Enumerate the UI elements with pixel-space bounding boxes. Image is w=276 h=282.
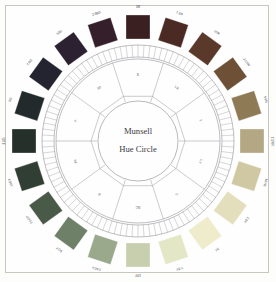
hue-swatch-label-5r: 5R	[136, 5, 141, 9]
hue-swatch-label-2-5y: 2.5Y	[242, 216, 250, 224]
tick-cell-label: ·	[66, 85, 67, 86]
tick-cell-label: ·	[47, 137, 48, 138]
hue-swatch-label-5yr: 5YR	[263, 96, 269, 104]
sector-label-y: Y	[198, 119, 203, 123]
hue-swatch-7-5y	[158, 234, 188, 264]
tick-cell-label: ·	[162, 227, 163, 228]
sector-label-r: R	[137, 73, 140, 77]
hue-swatch-2-5gy	[88, 234, 118, 264]
tick-cell-label: ·	[107, 225, 108, 226]
tick-cell-label: ·	[168, 56, 169, 57]
tick-cell-label: ·	[228, 144, 229, 145]
hue-swatch-10yr	[231, 161, 261, 191]
hue-swatch-2-5bg	[88, 17, 118, 47]
hue-swatch-label-10y: 10Y	[134, 273, 141, 277]
hue-swatch-10g	[54, 32, 88, 66]
tick-cell-label: ·	[222, 171, 223, 172]
tick-cell-label: ·	[112, 54, 113, 55]
center-title-line1: Munsell	[124, 126, 153, 136]
hue-swatch-2-5g	[12, 129, 36, 153]
hue-swatch-label-7-5r: 7.5R	[176, 10, 184, 16]
tick-cell-label: ·	[87, 66, 88, 67]
sector-label-rp: RP	[97, 85, 103, 91]
hue-swatch-label-2-5yr: 2.5YR	[242, 57, 251, 67]
sector-label-p: P	[73, 119, 77, 122]
hue-swatch-2-5yr	[213, 57, 247, 91]
sector-label-gy: GY	[198, 158, 203, 164]
tick-cell-label: ·	[82, 211, 83, 212]
tick-cell-label: ·	[134, 231, 135, 232]
sector-label-g: G	[174, 192, 179, 197]
hue-swatch-label-7-5gy: 7.5GY	[25, 214, 34, 225]
hue-swatch-label-5gy: 5GY	[55, 245, 63, 253]
hue-swatch-label-2-5bg: 2.5BG	[91, 10, 102, 17]
center-disc-group	[98, 101, 178, 181]
hue-swatch-5y	[188, 216, 222, 250]
hue-swatch-5r	[126, 15, 150, 39]
hue-swatch-label-5y: 5Y	[213, 247, 219, 253]
hue-swatch-7-5g	[29, 57, 63, 91]
tick-cell-label: ·	[63, 191, 64, 192]
tick-cell-label: ·	[212, 90, 213, 91]
tick-cell-label: ·	[224, 115, 225, 116]
tick-cell-label: ·	[208, 196, 209, 197]
sector-label-yr: YR	[174, 85, 181, 91]
hue-swatch-10y	[126, 243, 150, 267]
hue-swatch-label-5g: 5G	[8, 96, 13, 102]
hue-swatch-10gy	[14, 161, 44, 191]
center-title-line2: Hue Circle	[119, 144, 157, 154]
hue-swatch-7-5r	[158, 17, 188, 47]
sector-label-bg: BG	[135, 205, 140, 209]
sector-label-b: B	[97, 191, 102, 196]
hue-swatch-label-2-5g: 2.5G	[2, 137, 6, 145]
hue-swatch-label-10r: 10R	[213, 29, 221, 36]
tick-cell-label: ·	[141, 50, 142, 51]
hue-swatch-7-5gy	[29, 191, 63, 225]
munsell-hue-circle-figure: ···················· RYRYGYGBGBPBPRP 5R7…	[0, 0, 276, 282]
hue-swatch-5g	[14, 91, 44, 121]
tick-cell-label: ·	[193, 69, 194, 70]
hue-swatch-label-10yr: 10YR	[262, 178, 269, 188]
hue-swatch-7-5yr	[240, 129, 264, 153]
hue-swatch-10r	[188, 32, 222, 66]
sector-label-pb: PB	[73, 158, 78, 164]
hue-swatch-label-10g: 10G	[55, 29, 63, 36]
hue-swatch-label-7-5yr: 7.5YR	[270, 136, 274, 146]
hue-swatch-5gy	[54, 216, 88, 250]
hue-circle-diagram: ···················· RYRYGYGBGBPBPRP 5R7…	[0, 0, 276, 282]
hue-swatch-label-7-5y: 7.5Y	[175, 266, 183, 272]
tick-cell-label: ·	[51, 165, 52, 166]
hue-swatch-2-5y	[213, 191, 247, 225]
tick-cell-label: ·	[53, 110, 54, 111]
tick-cell-label: ·	[188, 215, 189, 216]
hue-swatch-label-10gy: 10GY	[7, 177, 14, 187]
hue-swatch-label-7-5g: 7.5G	[26, 58, 34, 66]
hue-swatch-label-2-5gy: 2.5GY	[91, 265, 102, 272]
hue-swatch-5yr	[231, 91, 261, 121]
